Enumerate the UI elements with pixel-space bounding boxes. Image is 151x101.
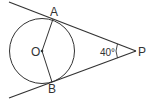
tangent-line-pb	[9, 51, 136, 98]
angle-arc-p	[116, 44, 118, 58]
tangent-line-pa	[9, 2, 136, 51]
label-a: A	[50, 5, 58, 19]
center-point-o	[41, 50, 44, 53]
label-p: P	[138, 45, 146, 59]
label-o: O	[31, 45, 40, 59]
radius-ob	[42, 51, 52, 82]
angle-label: 40°	[100, 47, 115, 58]
label-b: B	[48, 82, 56, 96]
geometry-diagram: A O B P 40°	[0, 0, 151, 101]
radius-oa	[42, 19, 53, 51]
